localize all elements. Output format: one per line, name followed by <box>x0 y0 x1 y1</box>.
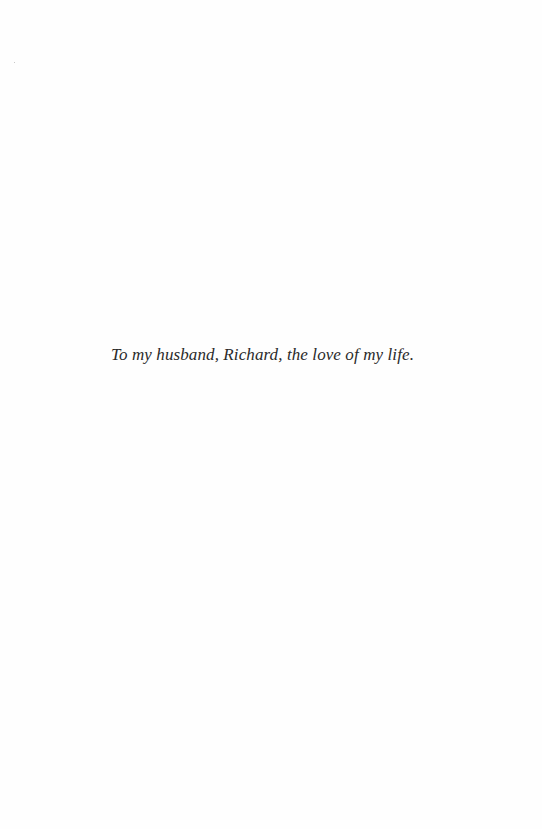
paper-speck <box>14 62 15 63</box>
dedication-text: To my husband, Richard, the love of my l… <box>0 345 525 365</box>
book-page: To my husband, Richard, the love of my l… <box>0 0 542 829</box>
